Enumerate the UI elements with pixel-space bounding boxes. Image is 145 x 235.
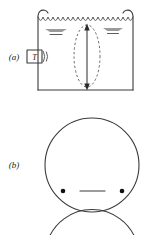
panel-a-group: (a) T <box>9 10 133 90</box>
figure-canvas: (a) T <box>0 0 145 235</box>
panel-label-a: (a) <box>9 52 20 62</box>
container-right-wall <box>123 10 133 90</box>
dot-right <box>120 189 125 194</box>
transducer-label: T <box>32 53 37 62</box>
sound-wave-icon <box>44 52 48 62</box>
rippled-water-surface <box>38 17 133 21</box>
vertical-double-arrow <box>84 24 89 91</box>
shade-marker-right <box>103 28 123 34</box>
figure-root: (a) T <box>0 0 145 235</box>
shade-marker-left <box>45 29 67 35</box>
panel-b-group: (b) <box>9 118 139 235</box>
panel-label-b: (b) <box>9 160 20 170</box>
transducer-box[interactable]: T <box>27 50 42 63</box>
partial-circle-below <box>47 210 137 235</box>
dot-left <box>61 189 66 194</box>
main-circle <box>45 118 139 212</box>
